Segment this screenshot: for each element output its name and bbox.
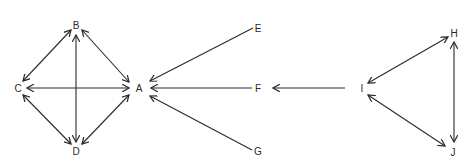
edge-e-a: [150, 28, 253, 81]
edge-b-a: [82, 30, 129, 82]
edge-g-a: [150, 96, 252, 150]
node-b-label: B: [73, 20, 80, 31]
edge-c-d: [23, 95, 71, 144]
edge-b-c: [23, 30, 71, 81]
node-a-label: A: [136, 83, 143, 94]
node-f-label: F: [255, 83, 261, 94]
node-d-label: D: [72, 146, 79, 157]
node-e-label: E: [255, 23, 262, 34]
graph-diagram: A B C D E F G H I J: [0, 0, 476, 161]
node-h-label: H: [450, 28, 457, 39]
edge-i-h: [368, 37, 448, 83]
edge-d-a: [82, 95, 129, 144]
node-c-label: C: [14, 83, 21, 94]
node-j-label: J: [451, 147, 456, 158]
node-i-label: I: [361, 83, 364, 94]
edge-i-j: [368, 95, 445, 146]
node-g-label: G: [254, 146, 262, 157]
